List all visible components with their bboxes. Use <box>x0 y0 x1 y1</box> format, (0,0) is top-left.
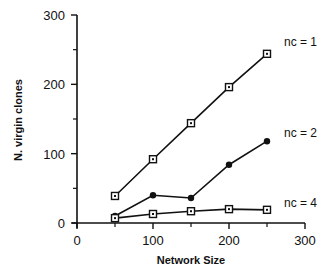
x-tick-label: 200 <box>218 233 240 248</box>
line-chart: 01002003000100200300 nc = 1nc = 2nc = 4 … <box>0 0 328 278</box>
y-tick-label: 300 <box>43 8 65 23</box>
data-point-marker <box>150 192 156 198</box>
data-point-marker <box>264 138 270 144</box>
y-axis-title: N. virgin clones <box>12 79 24 161</box>
data-point-marker-dot <box>228 208 230 210</box>
series-layer: nc = 1nc = 2nc = 4 <box>112 35 318 222</box>
x-tick-label: 100 <box>142 233 164 248</box>
series-nc1: nc = 1 <box>112 35 318 200</box>
y-tick-label: 200 <box>43 77 65 92</box>
data-point-marker-dot <box>190 210 192 212</box>
data-point-marker-dot <box>228 86 230 88</box>
y-tick-label: 100 <box>43 147 65 162</box>
x-tick-label: 0 <box>73 233 80 248</box>
y-tick-label: 0 <box>58 216 65 231</box>
series-label: nc = 1 <box>284 35 317 49</box>
series-nc4: nc = 4 <box>112 196 318 222</box>
data-point-marker <box>226 162 232 168</box>
data-point-marker <box>188 195 194 201</box>
data-point-marker-dot <box>152 158 154 160</box>
series-label: nc = 2 <box>284 126 317 140</box>
data-point-marker-dot <box>114 217 116 219</box>
series-label: nc = 4 <box>284 196 317 210</box>
data-point-marker-dot <box>114 195 116 197</box>
series-line <box>115 141 267 216</box>
data-point-marker-dot <box>152 213 154 215</box>
data-point-marker-dot <box>266 53 268 55</box>
data-point-marker-dot <box>190 122 192 124</box>
data-point-marker-dot <box>266 209 268 211</box>
x-axis-title: Network Size <box>157 254 225 266</box>
x-tick-label: 300 <box>294 233 316 248</box>
